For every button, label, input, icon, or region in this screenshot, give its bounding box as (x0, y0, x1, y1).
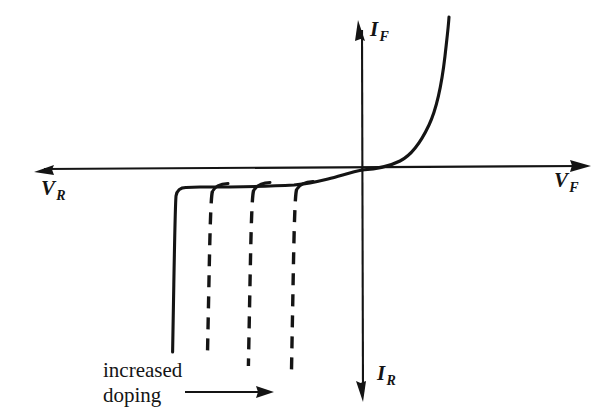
increased-doping-annotation: increased doping (103, 358, 182, 407)
axis-label-ir-subscript: R (386, 373, 396, 388)
breakdown-curve-dashed-4 (291, 190, 296, 377)
axis-label-vf-symbol: V (554, 168, 568, 192)
axis-label-vf-subscript: F (569, 180, 579, 195)
annotation-line-1: increased (103, 358, 182, 383)
annotation-line-2: doping (103, 383, 182, 408)
axis-label-vr-symbol: V (41, 176, 55, 200)
up-arrowhead-icon (355, 20, 365, 41)
breakdown-curve-dashed-2 (207, 192, 212, 359)
breakdown-curve-dashed-4-knee (297, 182, 313, 190)
diode-iv-characteristic-figure: IF IR VR VF increased doping (0, 0, 615, 419)
axis-label-ir-symbol: I (377, 361, 385, 385)
axis-label-reverse-voltage: VR (41, 178, 66, 203)
iv-curve-canvas (0, 0, 615, 419)
increased-doping-arrowhead-icon (256, 386, 274, 398)
axis-label-if-subscript: F (379, 29, 389, 44)
vertical-axis-line (362, 30, 363, 392)
reverse-leakage-curve (186, 170, 362, 188)
axis-label-vr-subscript: R (56, 188, 66, 203)
axis-label-forward-voltage: VF (554, 170, 579, 195)
left-arrowhead-icon (34, 165, 54, 175)
down-arrowhead-icon (356, 381, 366, 402)
breakdown-curve-solid-1 (173, 188, 186, 353)
axis-label-forward-current: IF (370, 19, 389, 44)
axis-label-if-symbol: I (370, 17, 378, 41)
breakdown-curve-dashed-3 (248, 191, 253, 367)
horizontal-axis-line (44, 166, 582, 169)
axis-label-reverse-current: IR (377, 363, 396, 388)
